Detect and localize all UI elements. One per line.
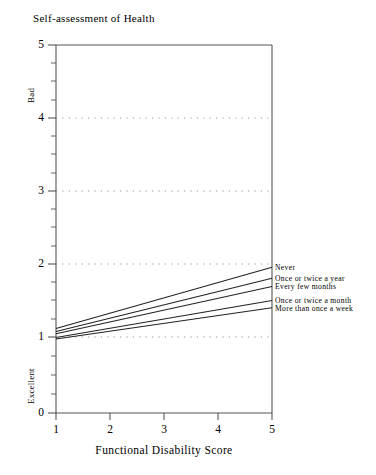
x-major-ticks <box>56 413 272 420</box>
series-line-every-few-months <box>56 286 272 333</box>
x-tick-label-5: 5 <box>262 423 282 435</box>
y-tick-label-3: 3 <box>24 184 44 196</box>
series-label-more-than-once-a-week: More than once a week <box>275 304 353 313</box>
y-tick-label-5: 5 <box>24 38 44 50</box>
chart-title: Self-assessment of Health <box>33 12 155 24</box>
x-tick-label-3: 3 <box>154 423 174 435</box>
chart-canvas <box>0 0 376 475</box>
y-minor-ticks <box>51 63 56 394</box>
y-axis-label-excellent: Excellent <box>26 368 36 404</box>
plot-axes <box>56 45 272 413</box>
x-tick-label-2: 2 <box>100 423 120 435</box>
grid-lines <box>56 118 272 337</box>
x-tick-label-1: 1 <box>46 423 66 435</box>
data-series <box>56 267 272 339</box>
x-tick-label-4: 4 <box>208 423 228 435</box>
series-label-never: Never <box>275 263 295 272</box>
y-tick-label-1: 1 <box>24 330 44 342</box>
y-axis-label-bad: Bad <box>26 88 36 103</box>
series-label-every-few-months: Every few months <box>275 282 336 291</box>
chart-figure: Self-assessment of Health <box>0 0 376 475</box>
y-tick-label-0: 0 <box>24 406 44 418</box>
y-tick-label-2: 2 <box>24 257 44 269</box>
y-tick-label-4: 4 <box>24 111 44 123</box>
x-axis-title: Functional Disability Score <box>56 444 272 456</box>
